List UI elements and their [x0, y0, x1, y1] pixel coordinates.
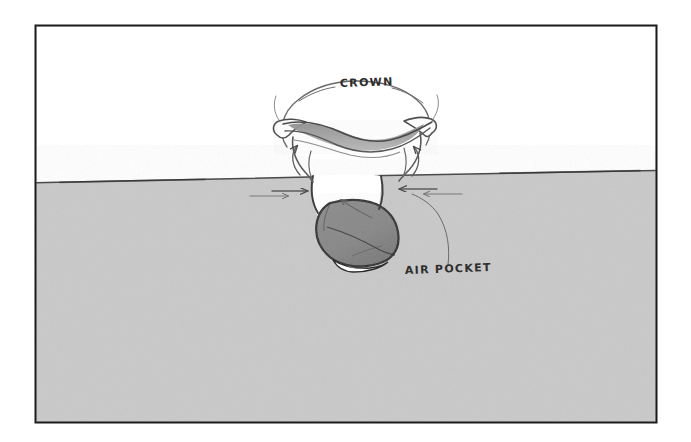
- crown-label: CROWN: [340, 75, 394, 90]
- splash-diagram-svg: CROWN AIR POCKET: [0, 0, 691, 442]
- drawing-area: CROWN AIR POCKET: [36, 26, 656, 422]
- illustration-figure: CROWN AIR POCKET: [0, 0, 691, 442]
